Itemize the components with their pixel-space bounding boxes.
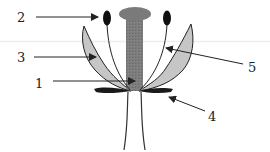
- label-1: 1: [35, 77, 43, 90]
- label-4: 4: [208, 110, 216, 123]
- anther-left: [103, 11, 111, 26]
- pistil: [119, 7, 151, 91]
- arrow-4: [169, 97, 205, 111]
- label-3: 3: [17, 51, 25, 64]
- pedicel: [124, 92, 145, 150]
- style: [126, 17, 143, 91]
- label-2: 2: [17, 11, 25, 24]
- label-5: 5: [248, 61, 256, 74]
- stigma: [119, 7, 151, 21]
- anther-right: [163, 11, 171, 26]
